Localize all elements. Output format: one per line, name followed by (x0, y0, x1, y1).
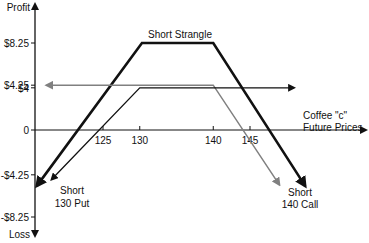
y-tick-label: $8.25 (4, 38, 29, 49)
put-label-line1: Short (60, 185, 84, 196)
y-axis-arrow-down-icon (31, 230, 39, 238)
x-ticks: 125130140145 (95, 126, 259, 146)
y-tick-label: $4 (18, 83, 30, 94)
x-axis-label-line2: Future Prices (303, 122, 362, 133)
series-group (37, 43, 305, 186)
x-axis-label-line1: Coffee "c" (303, 110, 348, 121)
call-label-line1: Short (288, 187, 312, 198)
y-tick-label: -$8.25 (1, 212, 30, 223)
y-tick-label: 0 (23, 125, 29, 136)
y-label-profit: Profit (7, 2, 31, 13)
x-tick-label: 140 (205, 135, 222, 146)
x-tick-label: 130 (131, 135, 148, 146)
y-ticks: $8.25$4.25$40-$4.25-$8.25 (1, 38, 35, 223)
y-label-loss: Loss (9, 229, 30, 240)
y-tick-label: -$4.25 (1, 170, 30, 181)
strangle-label: Short Strangle (148, 29, 212, 40)
put-line (52, 88, 295, 180)
x-tick-label: 125 (95, 135, 112, 146)
y-axis-arrow-up-icon (31, 2, 39, 10)
strangle-line (37, 43, 305, 186)
payoff-chart: Profit Loss $8.25$4.25$40-$4.25-$8.25 12… (0, 0, 369, 243)
call-label-line2: 140 Call (282, 199, 319, 210)
put-label-line2: 130 Put (55, 198, 90, 209)
